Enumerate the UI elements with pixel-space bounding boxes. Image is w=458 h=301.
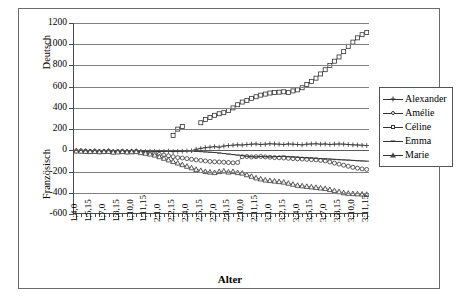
data-marker <box>254 95 258 99</box>
data-marker <box>222 111 226 115</box>
data-marker <box>213 160 217 164</box>
x-tick-label: 2;4,0 <box>181 204 190 222</box>
x-tick-label: 2;7,0 <box>209 204 218 222</box>
x-tick-label: 1;5,15 <box>84 199 93 222</box>
x-tick <box>357 213 358 217</box>
legend-item-emma[interactable]: Emma <box>383 134 448 148</box>
legend-label: Céline <box>403 122 431 132</box>
x-tick <box>164 213 165 217</box>
data-marker <box>328 160 332 164</box>
data-marker <box>226 161 230 165</box>
data-marker <box>263 142 268 147</box>
data-marker <box>199 158 203 162</box>
y-tick-label: 800 <box>53 61 67 71</box>
legend-item-céline[interactable]: Céline <box>383 120 448 134</box>
gridline <box>74 65 369 66</box>
data-marker <box>360 143 365 148</box>
data-marker <box>240 100 244 104</box>
data-marker <box>295 142 300 147</box>
legend-label: Emma <box>403 136 431 146</box>
y-tick-label: 600 <box>53 82 67 92</box>
data-marker <box>222 160 226 164</box>
data-marker <box>327 142 332 147</box>
data-marker <box>355 166 359 170</box>
data-marker <box>360 33 364 37</box>
data-marker <box>365 31 369 35</box>
x-tick-label: 3;5,15 <box>305 199 314 222</box>
data-marker <box>208 115 212 119</box>
y-tick <box>69 150 74 151</box>
data-marker <box>300 142 305 147</box>
legend-item-amélie[interactable]: Amélie <box>383 106 448 120</box>
data-marker <box>351 165 355 169</box>
data-marker <box>319 72 323 76</box>
y-tick <box>69 23 74 24</box>
data-marker <box>332 161 336 165</box>
x-tick <box>261 213 262 217</box>
data-marker <box>213 113 217 117</box>
x-tick <box>192 213 193 217</box>
x-tick-label: 3;8,15 <box>333 199 342 222</box>
x-tick <box>247 213 248 217</box>
plot-area: 120010008006004002000-200-400-600 <box>73 23 368 214</box>
data-marker <box>364 143 369 148</box>
data-marker <box>259 93 263 97</box>
data-marker <box>249 96 253 100</box>
series-céline <box>171 31 369 138</box>
data-marker <box>323 68 327 72</box>
y-tick-label: -400 <box>50 188 67 198</box>
data-marker <box>273 156 277 160</box>
data-marker <box>360 167 364 171</box>
data-marker <box>208 159 212 163</box>
y-tick <box>69 87 74 88</box>
x-tick-label: 2;5,15 <box>195 199 204 222</box>
chart-legend: AlexanderAmélieCélineEmmaMarie <box>379 87 453 167</box>
y-tick-label: 0 <box>62 146 67 156</box>
gridline <box>74 87 369 88</box>
data-marker <box>268 91 272 95</box>
data-marker <box>212 144 217 149</box>
x-tick <box>302 213 303 217</box>
data-marker <box>318 142 323 147</box>
triangle-marker-icon <box>383 150 403 161</box>
x-tick-label: 1;11,15 <box>139 195 148 222</box>
x-tick <box>95 213 96 217</box>
data-marker <box>314 76 318 80</box>
x-tick <box>81 213 82 217</box>
data-marker <box>226 143 231 148</box>
y-tick <box>69 193 74 194</box>
data-marker <box>273 91 277 95</box>
legend-item-marie[interactable]: Marie <box>383 148 448 162</box>
data-marker <box>235 142 240 147</box>
data-marker <box>309 142 314 147</box>
data-marker <box>291 89 295 93</box>
data-marker <box>240 143 245 148</box>
y-tick-label: 200 <box>53 124 67 134</box>
data-marker <box>277 142 282 147</box>
x-tick-label: 1;4,0 <box>70 204 79 222</box>
data-marker <box>231 161 235 165</box>
x-tick-label: 3;4,0 <box>292 204 301 222</box>
data-marker <box>323 142 328 147</box>
x-tick <box>275 213 276 217</box>
data-marker <box>277 90 281 94</box>
data-marker <box>281 142 286 147</box>
x-tick <box>178 213 179 217</box>
y-tick-label: 1200 <box>48 18 67 28</box>
data-marker <box>249 142 254 147</box>
data-marker <box>176 156 180 160</box>
data-marker <box>263 92 267 96</box>
y-tick-label: 1000 <box>48 39 67 49</box>
data-marker <box>244 142 249 147</box>
x-axis-title: Alter <box>19 273 441 285</box>
data-marker <box>304 142 309 147</box>
legend-item-alexander[interactable]: Alexander <box>383 92 448 106</box>
data-marker <box>323 159 327 163</box>
data-marker <box>355 143 360 148</box>
x-tick <box>205 213 206 217</box>
y-tick <box>69 108 74 109</box>
legend-label: Amélie <box>403 108 434 118</box>
gridline <box>74 129 369 130</box>
gridline <box>74 23 369 24</box>
x-tick <box>109 213 110 217</box>
